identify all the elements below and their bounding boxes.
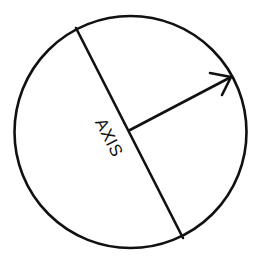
sphere-axis-diagram: AXIS: [0, 0, 259, 264]
circle-outline: [15, 16, 247, 248]
axis-label: AXIS: [91, 115, 126, 160]
arrow-head-icon: [210, 73, 231, 95]
radius-arrow-shaft: [130, 77, 231, 130]
axis-line: [76, 28, 183, 238]
